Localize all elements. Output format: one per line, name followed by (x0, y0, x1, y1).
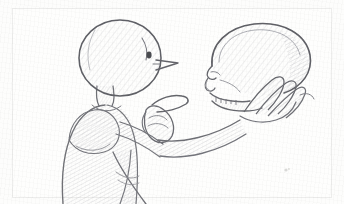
artboard: Pencil sketch of a figure pointing at a … (0, 0, 344, 204)
right-subject (205, 24, 314, 124)
pencil-drawing (0, 0, 344, 204)
corner-smudge (284, 168, 290, 171)
jaw-shading (210, 93, 250, 111)
pointing-hand (142, 95, 188, 142)
shoulder (69, 110, 119, 154)
eye-dot (146, 52, 151, 59)
